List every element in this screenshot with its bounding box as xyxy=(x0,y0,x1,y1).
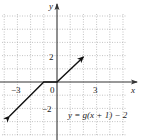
equation-label: y = g(x + 1) − 2 xyxy=(67,110,128,120)
tick-label-3: 3 xyxy=(93,85,98,95)
tick-label-2: 2 xyxy=(49,52,54,62)
y-axis-label: y xyxy=(48,1,53,11)
tick-label-neg3: −3 xyxy=(11,85,21,95)
x-axis-label: x xyxy=(130,85,135,95)
tick-label-0: 0 xyxy=(50,85,55,95)
tick-label-neg2: −2 xyxy=(42,104,52,114)
graph-plot: y x −3 0 3 2 −2 y = g(x + 1) − 2 xyxy=(0,0,147,140)
